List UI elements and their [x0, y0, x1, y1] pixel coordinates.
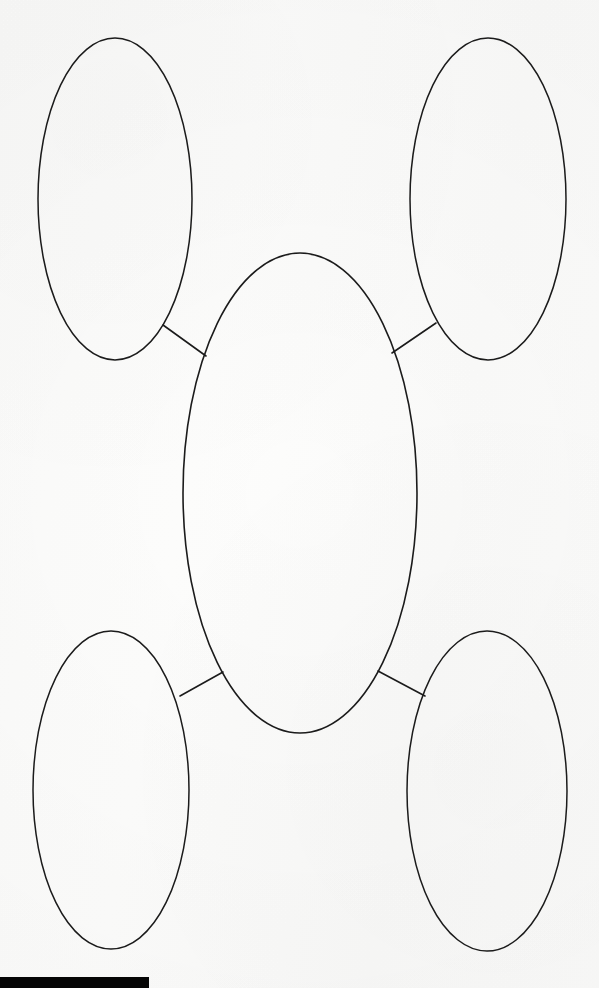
- worksheet-page: [0, 0, 599, 988]
- connector-center-to-top-right: [392, 323, 436, 353]
- connector-center-to-bottom-left: [180, 672, 223, 696]
- node-top-right-ellipse[interactable]: [410, 38, 566, 360]
- node-center-ellipse[interactable]: [183, 253, 417, 733]
- node-group: [33, 38, 567, 951]
- node-bottom-left-ellipse[interactable]: [33, 631, 189, 949]
- node-bottom-right-ellipse[interactable]: [407, 631, 567, 951]
- concept-map-canvas: [0, 0, 599, 988]
- connector-group: [163, 323, 436, 696]
- connector-center-to-top-left: [163, 325, 206, 356]
- connector-center-to-bottom-right: [378, 671, 425, 696]
- node-top-left-ellipse[interactable]: [38, 38, 192, 360]
- black-scan-bar: [0, 977, 149, 988]
